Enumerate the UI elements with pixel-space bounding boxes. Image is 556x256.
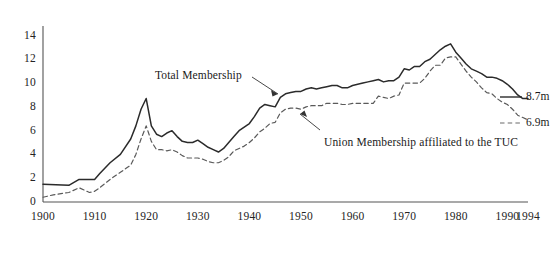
y-tick-2: 2 xyxy=(14,171,36,183)
union-membership-chart: 02468101214 1900191019201930194019501960… xyxy=(0,0,556,256)
series-tuc-membership-line xyxy=(43,57,528,197)
x-tick-1920: 1920 xyxy=(126,210,166,222)
end-label-total-membership: 8.7m xyxy=(526,90,549,102)
y-tick-8: 8 xyxy=(14,100,36,112)
x-tick-1960: 1960 xyxy=(333,210,373,222)
y-tick-4: 4 xyxy=(14,147,36,159)
y-tick-12: 12 xyxy=(14,52,36,64)
x-tick-1994: 1994 xyxy=(508,210,548,222)
x-tick-1900: 1900 xyxy=(23,210,63,222)
y-tick-6: 6 xyxy=(14,124,36,136)
y-tick-0: 0 xyxy=(14,195,36,207)
annotation-leaders xyxy=(252,77,320,130)
annotation-total-membership: Total Membership xyxy=(155,69,242,81)
x-tick-1930: 1930 xyxy=(178,210,218,222)
series-total-membership-line xyxy=(43,44,528,186)
x-tick-1970: 1970 xyxy=(384,210,424,222)
x-tick-1910: 1910 xyxy=(75,210,115,222)
x-tick-1940: 1940 xyxy=(229,210,269,222)
x-tick-1980: 1980 xyxy=(436,210,476,222)
x-tick-1950: 1950 xyxy=(281,210,321,222)
y-tick-10: 10 xyxy=(14,76,36,88)
annotation-tuc-membership: Union Membership affiliated to the TUC xyxy=(324,136,518,148)
end-label-tuc-membership: 6.9m xyxy=(526,116,549,128)
end-label-leaders xyxy=(500,97,522,123)
y-tick-14: 14 xyxy=(14,29,36,41)
